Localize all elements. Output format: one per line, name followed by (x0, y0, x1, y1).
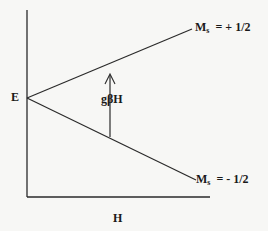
splitting-label: gβH (101, 92, 123, 107)
lower-level-line (27, 98, 196, 180)
lower-level-label: Ms = - 1/2 (196, 172, 249, 187)
field-label: H (113, 211, 122, 226)
energy-label: E (11, 90, 19, 105)
upper-level-label: Ms = + 1/2 (195, 20, 250, 35)
